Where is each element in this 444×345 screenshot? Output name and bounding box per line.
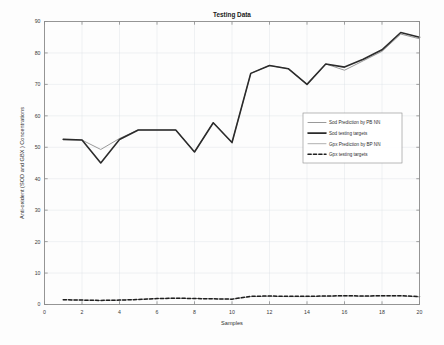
legend-label-0[interactable]: Sod Prediction by PB NN [329, 120, 380, 125]
y-tick-label: 20 [35, 239, 41, 245]
x-tick-label: 0 [43, 309, 46, 315]
y-tick-label: 50 [35, 144, 41, 150]
x-tick-label: 20 [417, 309, 423, 315]
y-tick-label: 70 [35, 81, 41, 87]
y-tick-label: 60 [35, 113, 41, 119]
y-tick-label: 0 [38, 301, 41, 307]
y-tick-label: 30 [35, 207, 41, 213]
x-axis-title: Samples [221, 320, 243, 326]
chart-legend[interactable]: Sod Prediction by PB NNSod testing targe… [303, 113, 402, 163]
y-tick-label: 90 [35, 18, 41, 24]
y-tick-label: 40 [35, 176, 41, 182]
y-tick-label: 80 [35, 50, 41, 56]
x-tick-label: 16 [342, 309, 348, 315]
legend-label-2[interactable]: Gpx Prediction by BP NN [329, 142, 381, 147]
testing-data-line-chart: Testing Data 02468101214161820 010203040… [0, 0, 444, 345]
x-tick-label: 2 [81, 309, 84, 315]
y-axis-title: Anti-oxident (SOD and GBX ) Concentratio… [19, 107, 25, 219]
legend-label-3[interactable]: Gpx testing targets [329, 152, 368, 157]
x-tick-label: 12 [267, 309, 273, 315]
figure-canvas: Testing Data 02468101214161820 010203040… [0, 0, 444, 345]
x-tick-label: 14 [304, 309, 310, 315]
legend-label-1[interactable]: Sod testing targets [329, 131, 368, 136]
x-tick-label: 8 [193, 309, 196, 315]
x-tick-label: 10 [229, 309, 235, 315]
y-tick-label: 10 [35, 270, 41, 276]
x-tick-label: 6 [156, 309, 159, 315]
chart-title: Testing Data [213, 11, 251, 19]
x-tick-label: 18 [379, 309, 385, 315]
x-tick-label: 4 [118, 309, 121, 315]
